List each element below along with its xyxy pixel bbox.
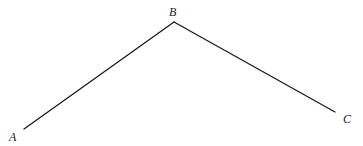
segment-ab: [24, 22, 174, 129]
point-label-a: A: [8, 130, 17, 144]
segment-bc: [174, 22, 335, 112]
angle-diagram: A B C: [0, 0, 363, 146]
point-label-c: C: [343, 112, 352, 126]
point-label-b: B: [169, 5, 177, 19]
